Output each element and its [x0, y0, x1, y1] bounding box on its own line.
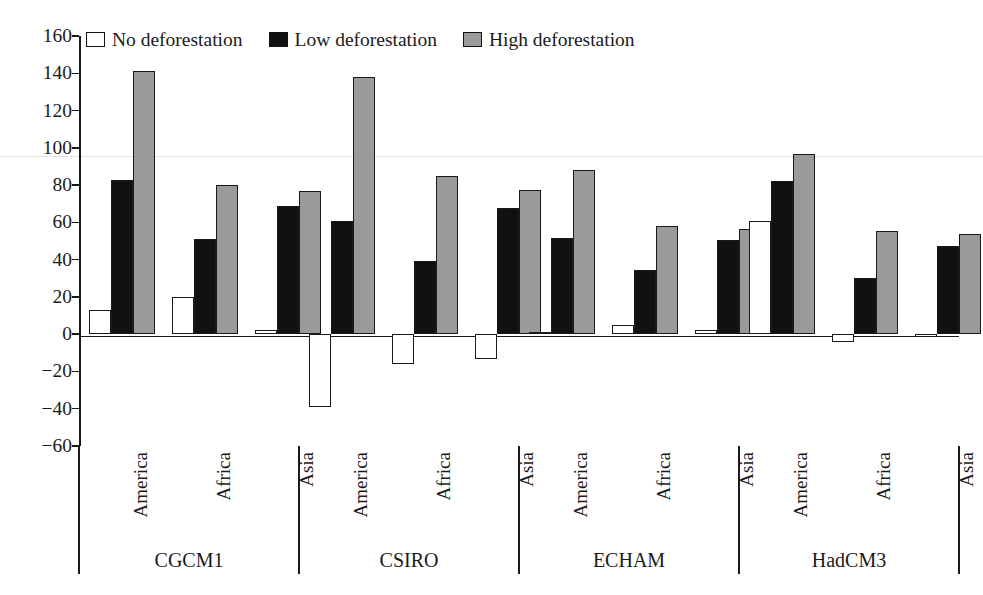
bar-cgcm1-asia-low [277, 206, 299, 335]
y-tick-label-wrap: 160 [0, 26, 72, 46]
group-separator [298, 446, 300, 574]
y-tick-label: 60 [10, 212, 72, 232]
y-tick-mark [72, 110, 79, 111]
bar-hadcm3-africa-high [876, 231, 898, 334]
region-label-america: America [571, 452, 590, 517]
model-label-hadcm3: HadCM3 [739, 550, 959, 570]
y-tick-mark [72, 222, 79, 223]
region-label-asia: Asia [517, 452, 536, 487]
y-tick-mark [72, 35, 79, 36]
bar-echam-america-low [551, 238, 573, 334]
bar-chart-figure: No deforestationLow deforestationHigh de… [0, 0, 983, 595]
y-tick-mark [72, 259, 79, 260]
bar-echam-africa-low [634, 270, 656, 334]
y-tick-label: 20 [10, 287, 72, 307]
region-label-america: America [351, 452, 370, 517]
region-label-asia: Asia [737, 452, 756, 487]
bar-hadcm3-america-no [749, 221, 771, 335]
bar-hadcm3-asia-high [959, 234, 981, 335]
y-tick-label-wrap: 120 [0, 101, 72, 121]
y-tick-mark [72, 371, 79, 372]
bar-echam-asia-no [695, 330, 717, 334]
group-separator-end [958, 446, 960, 574]
y-tick-label-wrap: −20 [0, 361, 72, 381]
y-tick-label-wrap: 0 [0, 324, 72, 344]
bar-cgcm1-america-no [89, 310, 111, 334]
region-label-africa: Africa [434, 452, 453, 501]
region-label-africa: Africa [654, 452, 673, 501]
y-tick-mark [72, 184, 79, 185]
y-tick-label-wrap: 140 [0, 63, 72, 83]
y-tick-label: 140 [10, 63, 72, 83]
bar-hadcm3-america-high [793, 154, 815, 334]
y-tick-label-wrap: 100 [0, 138, 72, 158]
y-tick-label-wrap: 40 [0, 250, 72, 270]
y-tick-label-wrap: −60 [0, 436, 72, 456]
model-label-csiro: CSIRO [299, 550, 519, 570]
group-separator [738, 446, 740, 574]
bar-echam-asia-low [717, 240, 739, 334]
bar-csiro-africa-no [392, 334, 414, 364]
y-tick-label: −40 [10, 399, 72, 419]
y-tick-label: −60 [10, 436, 72, 456]
bar-csiro-africa-high [436, 176, 458, 334]
bar-echam-america-no [529, 332, 551, 334]
bar-cgcm1-america-low [111, 180, 133, 335]
y-tick-label: 40 [10, 250, 72, 270]
model-label-echam: ECHAM [519, 550, 739, 570]
region-label-asia: Asia [297, 452, 316, 487]
bar-csiro-america-low [331, 221, 353, 335]
bar-hadcm3-africa-low [854, 278, 876, 334]
category-axis: AmericaAfricaAsiaCGCM1AmericaAfricaAsiaC… [79, 446, 959, 586]
bar-hadcm3-asia-low [937, 246, 959, 335]
bar-echam-africa-no [612, 325, 634, 334]
y-tick-mark [72, 296, 79, 297]
y-tick-mark [72, 73, 79, 74]
bar-cgcm1-america-high [133, 71, 155, 334]
y-tick-mark [72, 333, 79, 334]
y-tick-label-wrap: 20 [0, 287, 72, 307]
bar-cgcm1-asia-no [255, 330, 277, 334]
bar-hadcm3-america-low [771, 181, 793, 334]
bar-csiro-asia-no [475, 334, 497, 359]
region-label-asia: Asia [957, 452, 976, 487]
model-label-cgcm1: CGCM1 [79, 550, 299, 570]
plot-area [79, 36, 959, 446]
y-tick-label: 120 [10, 101, 72, 121]
bar-csiro-asia-high [519, 190, 541, 334]
y-tick-label: −20 [10, 361, 72, 381]
y-tick-label-wrap: 60 [0, 212, 72, 232]
y-tick-label: 0 [10, 324, 72, 344]
bar-echam-africa-high [656, 226, 678, 334]
region-label-africa: Africa [214, 452, 233, 501]
region-label-africa: Africa [874, 452, 893, 501]
y-tick-label: 80 [10, 175, 72, 195]
bar-hadcm3-africa-no [832, 334, 854, 341]
group-separator [518, 446, 520, 574]
bar-csiro-america-no [309, 334, 331, 407]
y-tick-label-wrap: 80 [0, 175, 72, 195]
y-tick-label: 160 [10, 26, 72, 46]
region-label-america: America [131, 452, 150, 517]
bar-echam-america-high [573, 170, 595, 334]
bar-cgcm1-asia-high [299, 191, 321, 335]
bar-csiro-america-high [353, 77, 375, 334]
y-tick-mark [72, 147, 79, 148]
bar-cgcm1-africa-no [172, 297, 194, 334]
group-separator [78, 446, 80, 574]
bar-csiro-asia-low [497, 208, 519, 334]
y-tick-label: 100 [10, 138, 72, 158]
bar-cgcm1-africa-low [194, 239, 216, 334]
region-label-america: America [791, 452, 810, 517]
bar-hadcm3-asia-no [915, 334, 937, 337]
bar-csiro-africa-low [414, 261, 436, 335]
y-tick-label-wrap: −40 [0, 399, 72, 419]
bar-cgcm1-africa-high [216, 185, 238, 334]
y-tick-mark [72, 408, 79, 409]
